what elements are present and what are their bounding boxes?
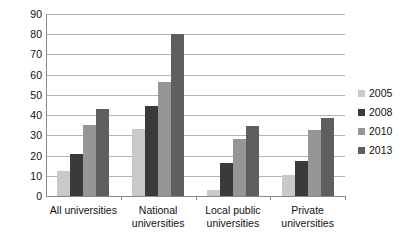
y-tick-label-70: 70	[2, 49, 42, 59]
bar	[70, 154, 83, 196]
y-tick-label-10: 10	[2, 171, 42, 181]
bar	[308, 130, 321, 196]
bar	[295, 161, 308, 196]
y-tick-label-60: 60	[2, 70, 42, 80]
legend: 2005200820102013	[358, 84, 408, 160]
bar-chart: 9080706050403020100 All universitiesNati…	[0, 0, 410, 238]
x-axis-label-line: Private	[258, 204, 357, 217]
bar	[145, 106, 158, 196]
y-tick-label-40: 40	[2, 110, 42, 120]
x-axis-tick	[345, 196, 346, 200]
legend-swatch-icon	[358, 147, 365, 154]
legend-label: 2010	[369, 126, 392, 137]
bar	[83, 125, 96, 196]
bar	[158, 82, 171, 196]
bar-group	[282, 14, 334, 196]
y-axis-tick-labels: 9080706050403020100	[0, 0, 42, 238]
bar-group	[207, 14, 259, 196]
y-tick-label-0: 0	[2, 191, 42, 201]
plot-area	[46, 14, 345, 196]
legend-swatch-icon	[358, 128, 365, 135]
bar	[282, 175, 295, 196]
bar-group	[57, 14, 109, 196]
y-tick-label-30: 30	[2, 130, 42, 140]
y-tick-label-80: 80	[2, 29, 42, 39]
x-axis-tick	[270, 196, 271, 200]
legend-item-2008[interactable]: 2008	[358, 103, 408, 122]
bar	[220, 163, 233, 196]
y-tick-label-50: 50	[2, 90, 42, 100]
bar	[171, 34, 184, 196]
bar	[246, 126, 259, 196]
bar-group	[132, 14, 184, 196]
bar	[207, 190, 220, 196]
bar	[132, 129, 145, 196]
legend-item-2010[interactable]: 2010	[358, 122, 408, 141]
y-axis-line	[46, 14, 47, 197]
bar	[321, 118, 334, 196]
legend-swatch-icon	[358, 109, 365, 116]
x-axis-label-line: universities	[258, 217, 357, 230]
bar	[233, 139, 246, 196]
bar	[96, 109, 109, 196]
legend-item-2005[interactable]: 2005	[358, 84, 408, 103]
y-tick-label-90: 90	[2, 9, 42, 19]
bar	[57, 171, 70, 196]
x-axis-label-4: Privateuniversities	[258, 204, 357, 230]
legend-item-2013[interactable]: 2013	[358, 141, 408, 160]
legend-label: 2013	[369, 145, 392, 156]
x-axis-tick	[121, 196, 122, 200]
legend-label: 2008	[369, 107, 392, 118]
y-tick-label-20: 20	[2, 151, 42, 161]
x-axis-tick	[196, 196, 197, 200]
legend-label: 2005	[369, 88, 392, 99]
legend-swatch-icon	[358, 90, 365, 97]
